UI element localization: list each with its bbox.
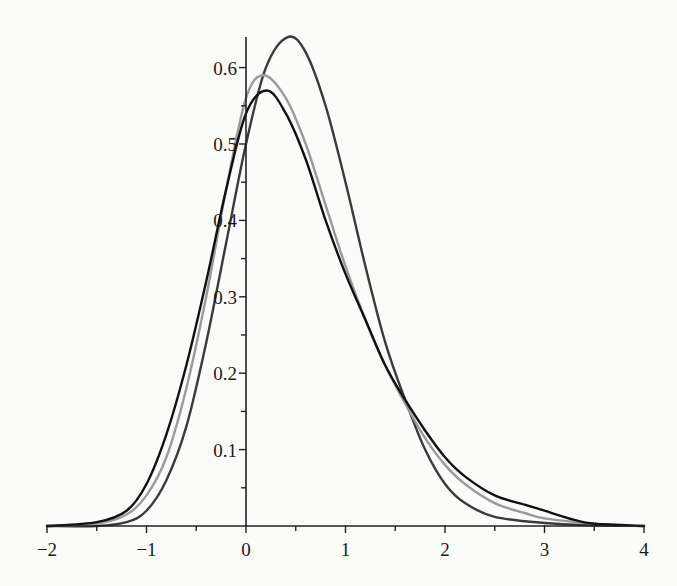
x-tick-label: 4 [639,539,649,560]
curve-dark-gray-tallest [47,36,644,526]
y-axis-ticks: 0.10.20.30.40.50.6 [213,58,246,488]
y-tick-label: 0.1 [213,440,237,461]
x-tick-label: −1 [136,539,156,560]
x-tick-label: −2 [37,539,57,560]
y-tick-label: 0.5 [213,134,237,155]
y-tick-label: 0.2 [213,363,237,384]
y-tick-label: 0.6 [213,58,237,79]
axes: −2−101234 0.10.20.30.40.50.6 [37,37,649,560]
x-tick-label: 0 [241,539,251,560]
x-tick-label: 1 [341,539,351,560]
y-tick-label: 0.4 [213,210,237,231]
x-tick-label: 3 [540,539,550,560]
curve-black [47,91,644,526]
x-axis-ticks: −2−101234 [37,525,649,560]
plot-curves [47,36,644,526]
curve-light-gray [47,75,644,526]
x-tick-label: 2 [440,539,450,560]
density-line-chart: −2−101234 0.10.20.30.40.50.6 [0,0,677,586]
y-tick-label: 0.3 [213,287,237,308]
